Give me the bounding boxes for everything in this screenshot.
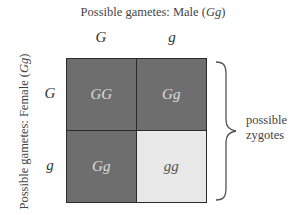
possible-zygotes-label: possible zygotes — [246, 113, 287, 143]
brace-label-line1: possible — [246, 113, 287, 128]
cell-Gg-top: Gg — [137, 59, 207, 131]
side-title-prefix: Possible gametes: Female ( — [17, 73, 31, 209]
punnett-square: GG Gg Gg gg — [66, 58, 207, 203]
brace-label-line2: zygotes — [246, 128, 287, 143]
cell-gg: gg — [137, 131, 207, 203]
curly-brace-icon — [214, 60, 240, 202]
title-genotype: Gg — [206, 5, 221, 19]
title-suffix: ) — [221, 5, 225, 19]
title-prefix: Possible gametes: Male ( — [81, 5, 206, 19]
cell-Gg-bottom: Gg — [67, 131, 137, 203]
side-title-genotype: Gg — [17, 58, 31, 73]
column-label-G: G — [66, 29, 136, 46]
row-label-G: G — [40, 85, 60, 102]
row-label-g: g — [40, 157, 60, 174]
column-label-g: g — [137, 29, 207, 46]
cell-GG: GG — [67, 59, 137, 131]
side-title-suffix: ) — [17, 54, 31, 58]
female-gametes-title: Possible gametes: Female (Gg) — [17, 46, 32, 215]
male-gametes-title: Possible gametes: Male (Gg) — [0, 5, 306, 20]
